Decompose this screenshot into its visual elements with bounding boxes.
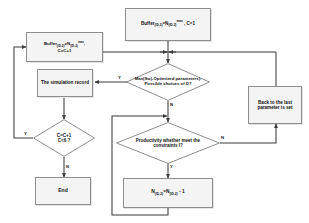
edge-label-productivity-yes: Y bbox=[170, 165, 173, 169]
node-simulation-record-label: The simulation record bbox=[38, 79, 92, 86]
node-max-sw-decision-label: Max(Sw)-Optimized parameters). Possible … bbox=[133, 77, 204, 87]
edge-label-counter-no: N bbox=[66, 165, 69, 169]
edge-label-productivity-no: N bbox=[221, 136, 224, 140]
edge-label-max-no: N bbox=[170, 103, 173, 107]
counter-line-1: C=C+1 bbox=[57, 133, 72, 138]
node-back-to-last: Back to the last parameter is set bbox=[248, 86, 302, 124]
node-decrement-n-label: N(ID-2)=N(ID-2) - 1 bbox=[124, 188, 212, 198]
node-productivity-decision-label: Productivity whether meet the constraint… bbox=[124, 138, 211, 148]
node-buffer-increment: Buffer(ID-2)=N(ID-2)max,C=C+1 bbox=[26, 32, 103, 62]
node-end-label: End bbox=[36, 187, 90, 195]
edge-productivity-no-to-back bbox=[220, 124, 276, 143]
edge-label-counter-yes: Y bbox=[24, 132, 27, 136]
node-simulation-record: The simulation record bbox=[37, 69, 93, 97]
node-end: End bbox=[35, 177, 91, 205]
node-start-buffer-label: Buffer(ID-2)=N(ID-2)max , C=1 bbox=[126, 19, 210, 29]
node-decrement-n: N(ID-2)=N(ID-2) - 1 bbox=[123, 178, 213, 208]
counter-line-2: C<6 ? bbox=[58, 138, 71, 143]
flowchart-canvas: Buffer(ID-2)=N(ID-2)max , C=1 Buffer(ID-… bbox=[0, 0, 309, 223]
node-buffer-increment-label: Buffer(ID-2)=N(ID-2)max,C=C+1 bbox=[27, 40, 102, 55]
node-productivity-decision: Productivity whether meet the constraint… bbox=[116, 122, 220, 164]
node-counter-decision: C=C+1 C<6 ? bbox=[33, 119, 95, 157]
edge-label-max-yes: Y bbox=[118, 76, 121, 80]
node-counter-decision-label: C=C+1 C<6 ? bbox=[38, 133, 90, 144]
node-max-sw-decision: Max(Sw)-Optimized parameters). Possible … bbox=[126, 63, 210, 101]
node-start-buffer: Buffer(ID-2)=N(ID-2)max , C=1 bbox=[125, 8, 211, 41]
node-back-to-last-label: Back to the last parameter is set bbox=[249, 99, 301, 112]
